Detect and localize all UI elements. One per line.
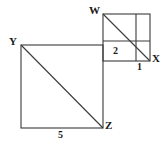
side-length-label-large-square: 5 — [58, 130, 63, 140]
small-square-diagonal — [103, 14, 150, 61]
vertex-label-z: Z — [105, 120, 112, 131]
large-square-group — [21, 45, 103, 128]
figure-canvas — [0, 0, 167, 150]
large-square-diagonal — [21, 45, 103, 128]
geometry-figure: W X Y Z 1 2 5 — [0, 0, 167, 150]
vertex-label-y: Y — [9, 36, 17, 47]
side-length-label-small-square: 1 — [137, 62, 142, 72]
small-square-group — [103, 14, 150, 61]
side-length-label-inner-segment: 2 — [113, 46, 118, 56]
vertex-label-x: X — [152, 53, 160, 64]
vertex-label-w: W — [89, 5, 100, 16]
